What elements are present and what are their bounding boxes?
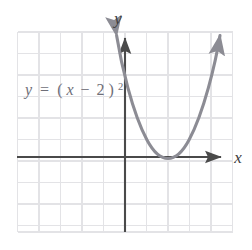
equation-variable: x (65, 81, 73, 98)
equation-equals: = (40, 81, 49, 98)
equation-constant: 2 (97, 81, 105, 98)
graph-figure: y x y = ( x − 2 ) 2 (0, 0, 252, 250)
equation-open-paren: ( (57, 81, 62, 99)
plot-canvas: y x y = ( x − 2 ) 2 (0, 0, 252, 250)
y-axis-label: y (112, 9, 122, 28)
x-axis-label: x (233, 148, 242, 167)
equation-exponent: 2 (118, 81, 123, 92)
equation-lhs: y (23, 81, 33, 99)
equation-close-paren: ) (109, 81, 114, 99)
equation-minus: − (81, 81, 90, 98)
